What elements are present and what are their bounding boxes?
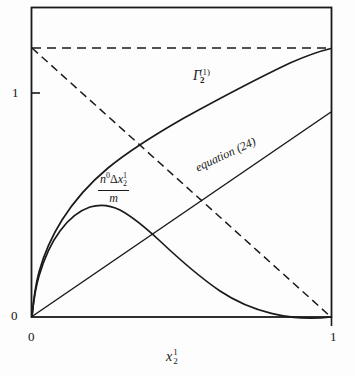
fraction-numerator: n0Δx12: [98, 172, 129, 191]
x-axis-title-base: x: [166, 349, 172, 364]
fraction-denominator: m: [98, 191, 129, 204]
numerator-x-subscript: 2: [123, 179, 127, 188]
y-axis-tick-label-1: 1: [12, 86, 19, 99]
numerator-delta: Δ: [110, 172, 118, 186]
x-axis-title-indices: 12: [173, 348, 178, 367]
numerator-x-indices: 12: [123, 172, 127, 189]
gamma-curve-label: Γ2(1): [193, 68, 210, 85]
x-axis-title: x12: [166, 348, 178, 367]
plot-canvas: [0, 0, 355, 376]
plot-frame: [32, 8, 332, 318]
x-axis-tick-label-1: 1: [330, 330, 337, 343]
peaked-curve: [32, 205, 331, 318]
gamma-superscript: (1): [199, 67, 210, 77]
ideal-dashed-line: [32, 48, 331, 317]
x-axis-title-subscript: 2: [173, 356, 178, 366]
x-axis-tick-label-0: 0: [28, 330, 35, 343]
figure-container: 1 0 0 1 Γ2(1) n0Δx12 m equation (24) x12: [0, 0, 355, 376]
y-axis-tick-label-0: 0: [11, 309, 18, 322]
flux-fraction-label: n0Δx12 m: [98, 172, 129, 204]
